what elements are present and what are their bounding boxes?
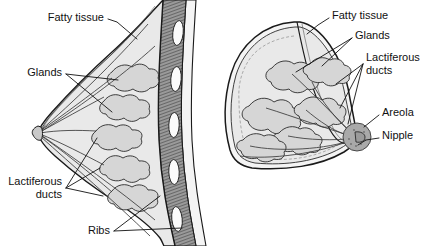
- label-lactiferous-ducts-left-line2: ducts: [36, 188, 63, 200]
- label-fatty-tissue-right: Fatty tissue: [332, 9, 388, 21]
- label-lactiferous-ducts-left-line1: Lactiferous: [8, 175, 62, 187]
- nipple-left: [32, 126, 42, 140]
- label-nipple-right: Nipple: [382, 129, 413, 141]
- anatomy-illustration: Fatty tissue Glands Lactiferous ducts Ri…: [0, 0, 425, 246]
- label-fatty-tissue-left: Fatty tissue: [48, 11, 104, 23]
- nipple-right: [355, 132, 365, 142]
- label-lactiferous-ducts-right-line2: ducts: [366, 64, 393, 76]
- label-ribs-left: Ribs: [88, 224, 111, 236]
- breast-profile-fat: [38, 0, 175, 246]
- left-lateral-section: Fatty tissue Glands Lactiferous ducts Ri…: [8, 0, 206, 246]
- leader-areola: [364, 115, 379, 127]
- label-glands-right: Glands: [355, 29, 390, 41]
- label-lactiferous-ducts-right-line1: Lactiferous: [366, 51, 420, 63]
- right-oblique-section: Fatty tissue Glands Lactiferous ducts Ar…: [225, 9, 420, 169]
- label-areola-right: Areola: [382, 106, 415, 118]
- breast-anatomy-figure: Fatty tissue Glands Lactiferous ducts Ri…: [0, 0, 425, 246]
- label-glands-left: Glands: [27, 66, 62, 78]
